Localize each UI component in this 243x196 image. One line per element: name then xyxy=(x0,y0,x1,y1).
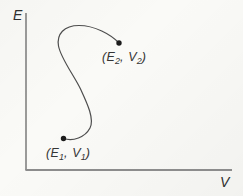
x-axis-label: V xyxy=(220,175,229,189)
state1-label-close: ) xyxy=(86,146,90,160)
state2-label-var1: E xyxy=(106,50,115,64)
state1-point xyxy=(61,136,66,141)
state2-point xyxy=(116,40,121,45)
energy-volume-diagram: E V (E2, V2) (E1, V1) xyxy=(0,0,243,196)
state1-label-separator: , xyxy=(64,146,71,160)
process-path-curve xyxy=(58,26,118,140)
diagram-canvas xyxy=(0,0,243,196)
state2-label-var2: V xyxy=(128,50,137,64)
state2-label-separator: , xyxy=(120,50,127,64)
y-axis-label: E xyxy=(13,8,22,22)
state1-label-var2: V xyxy=(72,146,81,160)
state2-label-close: ) xyxy=(142,50,146,64)
state2-label: (E2, V2) xyxy=(102,51,146,64)
state1-label: (E1, V1) xyxy=(46,147,90,160)
state1-label-var1: E xyxy=(50,146,59,160)
